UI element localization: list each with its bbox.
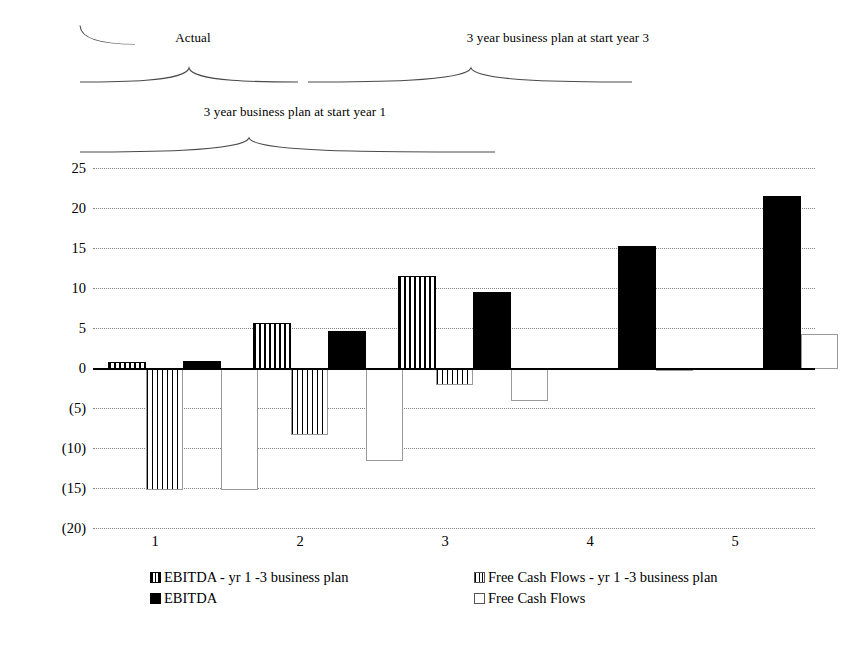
y-axis-tick-labels: 25 20 15 10 5 0 (5) (10) (15) (20) [38,168,86,528]
x-tick-3: 3 [441,533,448,550]
chart-figure: Actual 3 year business plan at start yea… [0,0,859,646]
annotation-plan-start-year-3: 3 year business plan at start year 3 [405,30,711,46]
legend-item-ebitda-plan[interactable]: EBITDA - yr 1 -3 business plan [150,570,348,585]
bar-ebitda-cat3 [473,292,511,369]
chart-legend: EBITDA - yr 1 -3 business plan EBITDA Fr… [150,570,790,618]
legend-swatch-striped-dark-icon [150,572,161,583]
gridline-5 [93,328,815,329]
legend-item-fcf[interactable]: Free Cash Flows [474,591,585,606]
bar-fcf-plan-cat1 [146,368,183,490]
annotation-plan-start-year-1: 3 year business plan at start year 1 [140,104,450,120]
bar-fcf-cat3 [511,368,548,401]
y-tick-neg5: (5) [40,401,86,416]
gridline-neg20 [93,528,815,529]
legend-swatch-open-icon [474,593,485,604]
legend-label-ebitda-plan: EBITDA - yr 1 -3 business plan [164,570,348,585]
x-tick-1: 1 [151,533,158,550]
x-tick-2: 2 [296,533,303,550]
x-tick-4: 4 [586,533,593,550]
gridline-neg5 [93,408,815,409]
gridline-15 [93,248,815,249]
zero-axis-line [93,368,815,370]
bar-fcf-cat5 [801,334,838,369]
second-bracket-row [75,132,525,158]
bar-ebitda-cat4 [618,246,656,369]
bar-ebitda-plan-cat2 [253,323,291,369]
bar-fcf-cat2 [366,368,403,461]
gridline-neg15 [93,488,815,489]
y-tick-25: 25 [40,161,86,176]
gridline-neg10 [93,448,815,449]
legend-swatch-solid-icon [150,593,161,604]
legend-label-fcf: Free Cash Flows [488,591,585,606]
gridline-10 [93,288,815,289]
plot-area [93,168,815,528]
y-tick-neg20: (20) [40,521,86,536]
y-tick-neg10: (10) [40,441,86,456]
bar-ebitda-cat5 [763,196,801,369]
annotation-actual: Actual [146,30,240,46]
y-tick-20: 20 [40,201,86,216]
top-brackets-row [75,60,795,90]
legend-swatch-striped-light-icon [474,572,485,583]
y-tick-15: 15 [40,241,86,256]
bar-ebitda-plan-cat3 [398,276,436,369]
bar-fcf-cat1 [221,368,258,490]
x-tick-5: 5 [731,533,738,550]
bar-ebitda-cat2 [328,331,366,369]
legend-label-fcf-plan: Free Cash Flows - yr 1 -3 business plan [488,570,718,585]
bar-fcf-plan-cat3 [436,368,473,385]
x-axis-tick-labels: 1 2 3 4 5 [93,533,815,555]
gridline-25 [93,168,815,169]
bar-fcf-plan-cat2 [291,368,328,435]
y-tick-5: 5 [40,321,86,336]
gridline-20 [93,208,815,209]
y-tick-0: 0 [40,361,86,376]
legend-item-ebitda[interactable]: EBITDA [150,591,217,606]
legend-label-ebitda: EBITDA [164,591,217,606]
legend-item-fcf-plan[interactable]: Free Cash Flows - yr 1 -3 business plan [474,570,718,585]
y-tick-10: 10 [40,281,86,296]
y-tick-neg15: (15) [40,481,86,496]
